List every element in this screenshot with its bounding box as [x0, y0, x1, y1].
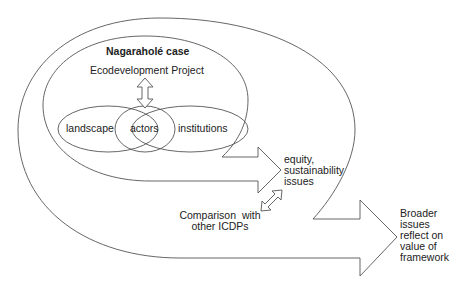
project-label: Ecodevelopment Project	[90, 65, 204, 76]
case-arrow-head	[222, 147, 281, 193]
outer-arrow-head	[313, 200, 397, 276]
case-title: Nagaraholé case	[106, 46, 189, 57]
comparison-label: Comparison with other ICDPs	[176, 210, 264, 232]
project-double-arrow	[137, 78, 153, 108]
case-bubble	[43, 36, 258, 181]
inner-outcome-line: issues	[284, 176, 344, 187]
institutions-label: institutions	[178, 123, 228, 134]
landscape-label: landscape	[66, 123, 114, 134]
actors-label: actors	[130, 123, 159, 134]
inner-outcome-label: equity, sustainability issues	[284, 154, 344, 187]
comparison-line: other ICDPs	[176, 221, 264, 232]
diagram-canvas	[0, 0, 464, 290]
comparison-double-arrow	[261, 190, 282, 211]
outer-outcome-line: framework	[400, 252, 449, 263]
outer-outcome-label: Broader issues reflect on value of frame…	[400, 208, 449, 263]
